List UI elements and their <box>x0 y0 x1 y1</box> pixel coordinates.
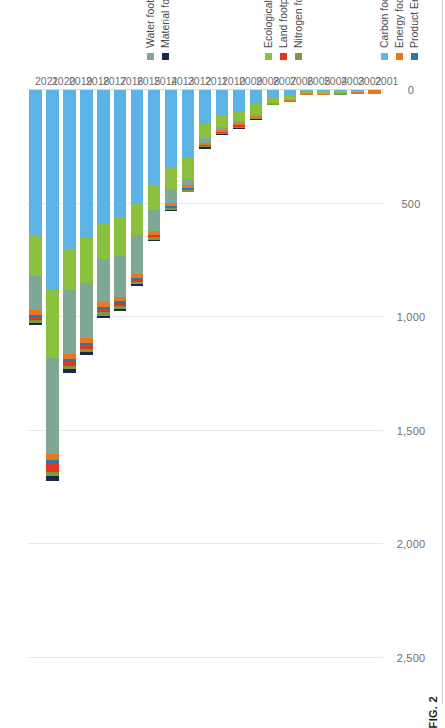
bar-segment[interactable] <box>29 90 42 235</box>
bar-segment[interactable] <box>80 283 93 338</box>
bar-segment[interactable] <box>249 118 262 119</box>
bar-segment[interactable] <box>249 119 262 120</box>
legend-item[interactable]: Energy footprint <box>394 0 405 60</box>
bar-segment[interactable] <box>249 90 262 104</box>
bar-segment[interactable] <box>147 240 160 241</box>
bar-segment[interactable] <box>63 354 76 360</box>
bar-segment[interactable] <box>368 90 381 94</box>
stacked-bar[interactable] <box>164 90 177 211</box>
bar-segment[interactable] <box>164 206 177 207</box>
bar-segment[interactable] <box>130 204 143 236</box>
bar-segment[interactable] <box>164 207 177 208</box>
bar-segment[interactable] <box>266 103 279 104</box>
bar-segment[interactable] <box>164 208 177 210</box>
stacked-bar[interactable] <box>113 90 126 311</box>
bar-segment[interactable] <box>113 217 126 256</box>
bar-segment[interactable] <box>29 310 42 315</box>
bar-segment[interactable] <box>80 238 93 283</box>
bar-segment[interactable] <box>29 235 42 276</box>
bar-segment[interactable] <box>80 90 93 238</box>
bar-segment[interactable] <box>198 148 211 149</box>
bar-segment[interactable] <box>198 146 211 147</box>
bar-segment[interactable] <box>147 235 160 236</box>
bar-segment[interactable] <box>97 302 110 307</box>
bar-segment[interactable] <box>113 309 126 311</box>
legend-item[interactable]: Water footprint <box>145 0 156 60</box>
bar-segment[interactable] <box>232 127 245 128</box>
bar-segment[interactable] <box>97 307 110 309</box>
legend-item[interactable]: Nitrogen footprint <box>293 0 304 60</box>
bar-segment[interactable] <box>317 90 330 91</box>
bar-segment[interactable] <box>334 93 347 94</box>
bar-segment[interactable] <box>249 104 262 115</box>
bar-segment[interactable] <box>147 237 160 239</box>
stacked-bar[interactable] <box>266 90 279 105</box>
bar-segment[interactable] <box>80 338 93 343</box>
bar-segment[interactable] <box>334 90 347 91</box>
bar-segment[interactable] <box>113 301 126 303</box>
bar-segment[interactable] <box>181 185 194 188</box>
bar-segment[interactable] <box>164 167 177 189</box>
bar-segment[interactable] <box>113 297 126 302</box>
bar-segment[interactable] <box>181 179 194 186</box>
bar-segment[interactable] <box>249 115 262 116</box>
bar-segment[interactable] <box>97 312 110 315</box>
bar-segment[interactable] <box>97 224 110 259</box>
bar-segment[interactable] <box>317 94 330 95</box>
bar-segment[interactable] <box>147 231 160 235</box>
bar-segment[interactable] <box>63 360 76 362</box>
bar-segment[interactable] <box>300 93 313 94</box>
bar-segment[interactable] <box>232 125 245 127</box>
bar-segment[interactable] <box>215 134 228 135</box>
bar-segment[interactable] <box>46 290 59 358</box>
bar-segment[interactable] <box>97 316 110 319</box>
bar-segment[interactable] <box>63 90 76 249</box>
bar-segment[interactable] <box>334 91 347 92</box>
bar-segment[interactable] <box>232 90 245 111</box>
stacked-bar[interactable] <box>351 90 364 94</box>
stacked-bar[interactable] <box>334 90 347 95</box>
bar-segment[interactable] <box>215 115 228 127</box>
bar-segment[interactable] <box>46 460 59 463</box>
bar-segment[interactable] <box>130 235 143 274</box>
bar-segment[interactable] <box>215 133 228 134</box>
bar-segment[interactable] <box>63 369 76 372</box>
bar-segment[interactable] <box>147 210 160 230</box>
bar-segment[interactable] <box>130 285 143 287</box>
bar-segment[interactable] <box>181 158 194 178</box>
bar-segment[interactable] <box>215 90 228 115</box>
stacked-bar[interactable] <box>283 90 296 102</box>
bar-segment[interactable] <box>181 192 194 193</box>
bar-segment[interactable] <box>113 306 126 309</box>
bar-segment[interactable] <box>46 454 59 460</box>
stacked-bar[interactable] <box>147 90 160 241</box>
bar-segment[interactable] <box>97 309 110 312</box>
bar-segment[interactable] <box>130 282 143 285</box>
bar-segment[interactable] <box>198 124 211 138</box>
bar-segment[interactable] <box>198 90 211 124</box>
bar-segment[interactable] <box>317 91 330 93</box>
stacked-bar[interactable] <box>29 90 42 325</box>
stacked-bar[interactable] <box>63 90 76 373</box>
bar-segment[interactable] <box>113 90 126 217</box>
bar-segment[interactable] <box>29 276 42 310</box>
legend-item[interactable]: Material footprint <box>160 0 171 60</box>
stacked-bar[interactable] <box>300 90 313 95</box>
bar-segment[interactable] <box>215 130 228 132</box>
bar-segment[interactable] <box>130 280 143 282</box>
stacked-bar[interactable] <box>97 90 110 318</box>
bar-segment[interactable] <box>147 236 160 238</box>
stacked-bar[interactable] <box>368 90 381 94</box>
bar-segment[interactable] <box>198 143 211 145</box>
bar-segment[interactable] <box>29 320 42 323</box>
bar-segment[interactable] <box>63 366 76 370</box>
legend-item[interactable]: Land footprint <box>278 0 289 60</box>
bar-segment[interactable] <box>300 92 313 93</box>
stacked-bar[interactable] <box>232 90 245 129</box>
stacked-bar[interactable] <box>215 90 228 135</box>
bar-segment[interactable] <box>283 100 296 101</box>
legend-item[interactable]: Ecological footprint <box>263 0 274 60</box>
bar-segment[interactable] <box>113 303 126 306</box>
bar-segment[interactable] <box>198 145 211 146</box>
bar-segment[interactable] <box>46 90 59 290</box>
